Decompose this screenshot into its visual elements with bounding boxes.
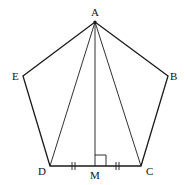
label-a: A	[91, 6, 99, 18]
label-c: C	[146, 165, 153, 177]
right-angle-marker	[95, 155, 106, 166]
label-e: E	[12, 70, 19, 82]
label-m: M	[90, 169, 100, 181]
pentagon-diagram: A B C D E M	[0, 0, 185, 185]
pentagon-abcde	[23, 22, 168, 166]
label-d: D	[38, 165, 46, 177]
label-b: B	[170, 70, 177, 82]
vertex-a-dot	[93, 20, 96, 23]
segment-ad	[50, 22, 95, 166]
segment-ac	[95, 22, 141, 166]
